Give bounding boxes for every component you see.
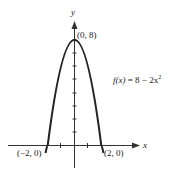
y-axis-label: y xyxy=(71,8,75,17)
equation-equals: = xyxy=(128,75,133,85)
right-intercept-label: (2, 0) xyxy=(104,149,124,158)
left-intercept-label: (−2, 0) xyxy=(17,149,42,158)
vertex-label: (0, 8) xyxy=(77,31,97,40)
y-axis-arrow-icon xyxy=(72,21,78,29)
equation-exponent: 2 xyxy=(158,74,161,80)
x-axis-label: x xyxy=(143,141,147,150)
equation-rhs: 8 − 2x xyxy=(135,75,158,85)
equation-lhs: f(x) xyxy=(113,75,126,85)
x-axis-arrow-icon xyxy=(132,143,140,149)
equation-label: f(x) = 8 − 2x2 xyxy=(113,74,161,85)
